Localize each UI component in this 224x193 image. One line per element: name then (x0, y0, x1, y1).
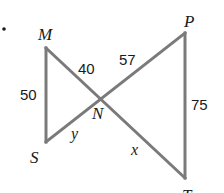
length-label-ms: 50 (20, 86, 37, 103)
similar-triangles-diagram: M P N S T 50 40 57 75 y x (0, 0, 224, 193)
length-label-np: 57 (119, 51, 136, 68)
vertex-label-s: S (30, 148, 39, 167)
vertex-label-n: N (91, 104, 105, 123)
segment-mt (46, 48, 185, 178)
length-label-sn: y (69, 125, 79, 143)
length-label-mn: 40 (78, 60, 95, 77)
bullet-dot (2, 27, 6, 31)
length-label-pt: 75 (191, 96, 208, 113)
vertex-label-p: P (183, 12, 194, 31)
vertex-label-t: T (182, 186, 193, 193)
segment-sp (46, 33, 185, 142)
vertex-label-m: M (37, 25, 53, 44)
length-label-nt: x (130, 141, 138, 158)
